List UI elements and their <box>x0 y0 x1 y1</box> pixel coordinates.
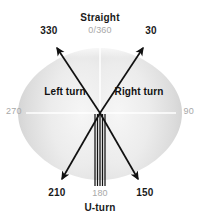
bearing-label-90: 90 <box>170 107 194 116</box>
bearing-label-0-360: 0/360 <box>68 26 132 35</box>
bearing-label-30: 30 <box>134 26 168 36</box>
bearing-diagram-figure: 330 Straight 0/360 30 270 90 Left turn R… <box>0 0 200 217</box>
bearing-label-330: 330 <box>32 26 66 36</box>
sector-label-straight: Straight <box>68 13 132 23</box>
bearing-label-270: 270 <box>6 107 32 116</box>
bearing-label-210: 210 <box>40 188 74 198</box>
sector-label-u-turn: U-turn <box>64 203 136 213</box>
sector-label-left-turn: Left turn <box>32 87 98 97</box>
sector-label-right-turn: Right turn <box>104 87 174 97</box>
bearing-label-150: 150 <box>128 188 162 198</box>
bearing-label-180: 180 <box>84 189 116 198</box>
